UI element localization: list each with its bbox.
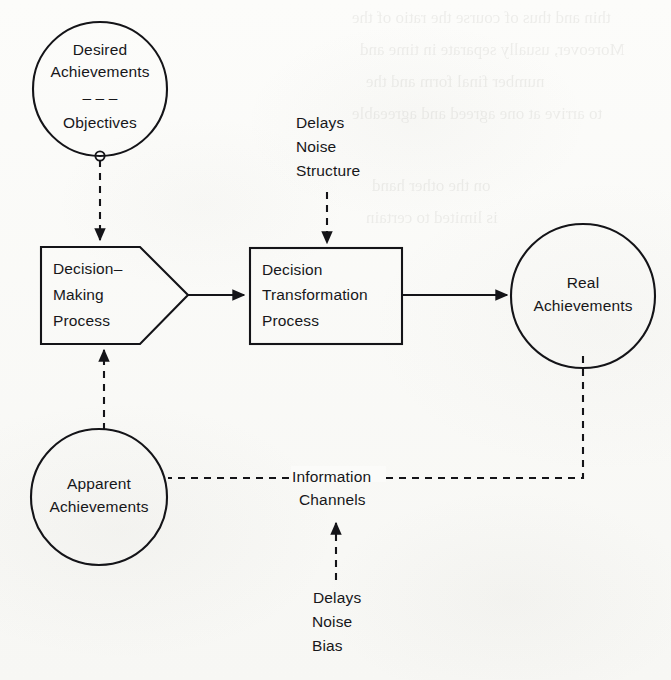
apparent-achievements-line2: Achievements: [49, 498, 148, 515]
node-decision-making-process[interactable]: Decision– Making Process: [41, 247, 188, 344]
real-achievements-outline: [511, 224, 655, 368]
channel-disturbances-line1: Delays: [313, 589, 361, 606]
channel-disturbances-line2: Noise: [312, 613, 352, 630]
decision-transformation-process-line1: Decision: [262, 261, 323, 278]
node-apparent-achievements[interactable]: Apparent Achievements: [31, 429, 167, 565]
annotation-channel-disturbances: Delays Noise Bias: [312, 589, 361, 654]
real-achievements-line2: Achievements: [533, 297, 632, 314]
connection-real-to-apparent-achievements-feedback: [168, 356, 583, 478]
transformation-disturbances-line3: Structure: [296, 162, 360, 179]
channel-disturbances-line3: Bias: [312, 637, 343, 654]
node-desired-achievements[interactable]: Desired Achievements – – – Objectives: [33, 22, 167, 156]
apparent-achievements-outline: [31, 429, 167, 565]
apparent-achievements-line1: Apparent: [67, 475, 132, 492]
annotation-information-channels: Information Channels: [291, 466, 386, 508]
real-achievements-line1: Real: [567, 274, 599, 291]
node-decision-transformation-process[interactable]: Decision Transformation Process: [250, 248, 402, 344]
decision-making-process-line1: Decision–: [53, 260, 123, 277]
desired-achievements-line2: Achievements: [50, 63, 149, 80]
decision-transformation-process-line3: Process: [262, 312, 319, 329]
decision-transformation-process-line2: Transformation: [262, 286, 368, 303]
decision-making-process-line3: Process: [53, 312, 110, 329]
desired-achievements-line3: Objectives: [63, 114, 137, 131]
desired-achievements-separator: – – –: [82, 89, 117, 106]
transformation-disturbances-line1: Delays: [296, 114, 344, 131]
node-real-achievements[interactable]: Real Achievements: [511, 224, 655, 368]
figure-canvas: thin and thus of course the ratio of the…: [0, 0, 671, 680]
decision-making-process-line2: Making: [53, 286, 104, 303]
information-channels-line2: Channels: [299, 491, 366, 508]
annotation-transformation-disturbances: Delays Noise Structure: [296, 114, 360, 179]
desired-achievements-line1: Desired: [73, 41, 127, 58]
system-diagram: (dashed)--> Decision-Making Process --> …: [0, 0, 671, 680]
transformation-disturbances-line2: Noise: [296, 138, 336, 155]
information-channels-line1: Information: [292, 468, 371, 485]
connection-objectives-to-decision-making: [95, 151, 104, 240]
